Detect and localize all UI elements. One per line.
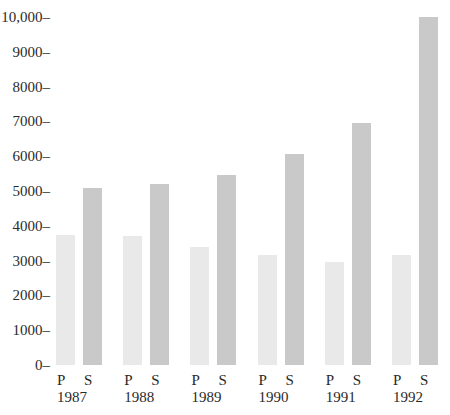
bar-s-1988 xyxy=(150,184,169,365)
y-tick-label: 0– xyxy=(35,357,50,373)
y-tick-label: 8000– xyxy=(13,79,51,95)
category-label: 1990 xyxy=(259,389,289,405)
y-tick-label: 7000– xyxy=(13,113,51,129)
series-label: P xyxy=(259,372,267,388)
series-label: P xyxy=(124,372,132,388)
y-tick-label: 5000– xyxy=(13,183,51,199)
series-label: S xyxy=(151,372,159,388)
bar-p-1989 xyxy=(190,247,209,365)
y-tick-label: 4000– xyxy=(13,218,51,234)
y-tick-label: 6000– xyxy=(13,148,51,164)
series-label: S xyxy=(420,372,428,388)
series-label: P xyxy=(326,372,334,388)
bar-p-1990 xyxy=(258,255,277,365)
y-tick-label: 10,000– xyxy=(1,9,50,25)
series-label: S xyxy=(84,372,92,388)
category-label: 1992 xyxy=(393,389,423,405)
bar-s-1989 xyxy=(217,175,236,365)
series-label: S xyxy=(286,372,294,388)
series-label: S xyxy=(218,372,226,388)
bar-p-1987 xyxy=(56,235,75,366)
series-label: P xyxy=(393,372,401,388)
bar-s-1990 xyxy=(285,154,304,365)
y-tick-label: 2000– xyxy=(13,287,51,303)
category-label: 1989 xyxy=(191,389,221,405)
bar-s-1992 xyxy=(419,17,438,365)
y-tick-label: 1000– xyxy=(13,322,51,338)
y-tick-label: 3000– xyxy=(13,253,51,269)
category-label: 1988 xyxy=(124,389,154,405)
series-label: P xyxy=(57,372,65,388)
bar-s-1987 xyxy=(83,188,102,365)
bar-p-1992 xyxy=(392,255,411,365)
bar-p-1988 xyxy=(123,236,142,365)
category-label: 1987 xyxy=(57,389,87,405)
series-label: P xyxy=(191,372,199,388)
y-tick-label: 9000– xyxy=(13,44,51,60)
bar-p-1991 xyxy=(325,262,344,365)
category-label: 1991 xyxy=(326,389,356,405)
bar-s-1991 xyxy=(352,123,371,365)
series-label: S xyxy=(353,372,361,388)
bar-chart: 0–1000–2000–3000–4000–5000–6000–7000–800… xyxy=(0,0,450,415)
